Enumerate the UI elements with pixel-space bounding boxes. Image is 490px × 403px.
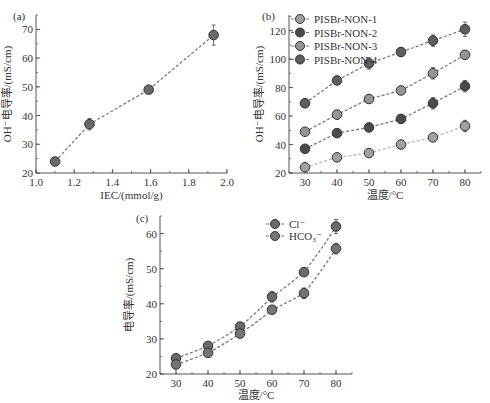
data-point-marker [300, 127, 310, 137]
y-tick-label: 40 [22, 110, 34, 122]
legend-label: HCO₃⁻ [289, 230, 322, 242]
series-line [305, 86, 465, 149]
data-point-marker [203, 348, 213, 358]
data-point-marker [396, 47, 406, 57]
data-point-marker [331, 222, 341, 232]
legend-marker [296, 15, 305, 24]
x-tick-label: 50 [235, 377, 247, 389]
x-tick-label: 1.2 [67, 176, 81, 188]
data-point-marker [299, 288, 309, 298]
x-tick-label: 40 [332, 176, 344, 188]
data-point-marker [300, 163, 310, 173]
x-tick-label: 40 [203, 377, 215, 389]
legend-item: PISBr-NON-2 [291, 27, 377, 39]
x-tick-label: 70 [299, 377, 311, 389]
y-tick-label: 60 [146, 228, 158, 240]
x-axis-title: 温度/°C [238, 388, 275, 401]
data-point-marker [396, 114, 406, 124]
y-tick-label: 70 [22, 23, 34, 35]
series-line [176, 249, 336, 365]
y-tick-label: 80 [275, 82, 287, 94]
data-point-marker [396, 86, 406, 96]
legend-marker [271, 232, 280, 241]
y-axis-title: OH⁻电导率/(mS/cm) [0, 46, 14, 143]
data-point-marker [85, 119, 95, 129]
y-tick-label: 40 [275, 139, 287, 151]
y-tick-label: 120 [270, 25, 287, 37]
legend-marker [296, 28, 305, 37]
x-tick-label: 60 [396, 176, 408, 188]
legend-item: PISBr-NON-1 [291, 13, 377, 25]
legend-item: Cl⁻ [266, 218, 305, 230]
legend-marker [296, 42, 305, 51]
x-tick-label: 30 [171, 377, 183, 389]
y-tick-label: 60 [275, 110, 287, 122]
y-tick-label: 30 [146, 333, 158, 345]
y-tick-label: 50 [22, 81, 34, 93]
x-tick-label: 80 [331, 377, 343, 389]
data-point-marker [267, 305, 277, 315]
legend-item: PISBr-NON-4 [291, 54, 378, 66]
panel-label: (c) [136, 212, 149, 225]
series-line [176, 227, 336, 359]
chart-panel-a: 1.01.21.41.61.82.0203040506070(a)IEC/(mm… [0, 10, 234, 202]
data-point-marker [171, 360, 181, 370]
legend-marker [296, 55, 305, 64]
y-axis-title: OH⁻电导率/(mS/cm) [252, 46, 266, 143]
x-axis-title: 温度/°C [367, 188, 404, 201]
legend-item: HCO₃⁻ [266, 230, 322, 242]
chart-panel-c: 3040506070802030405060(c)温度/°C电导率/(mS/cm… [122, 212, 352, 401]
y-tick-label: 40 [146, 298, 158, 310]
panel-label: (a) [13, 10, 26, 23]
y-tick-label: 30 [22, 138, 34, 150]
data-point-marker [460, 121, 470, 131]
data-point-marker [235, 329, 245, 339]
x-tick-label: 60 [267, 377, 279, 389]
data-point-marker [300, 98, 310, 108]
x-tick-label: 50 [364, 176, 376, 188]
data-point-marker [299, 267, 309, 277]
data-point-marker [428, 98, 438, 108]
x-tick-label: 1.6 [144, 176, 158, 188]
data-point-marker [267, 292, 277, 302]
data-point-marker [144, 85, 154, 95]
y-tick-label: 20 [22, 167, 34, 179]
series-line [305, 126, 465, 167]
y-axis-title: 电导率/(mS/cm) [122, 257, 136, 332]
data-point-marker [428, 133, 438, 143]
y-tick-label: 20 [146, 368, 158, 380]
data-point-marker [364, 123, 374, 133]
y-tick-label: 100 [270, 53, 287, 65]
figure: 1.01.21.41.61.82.0203040506070(a)IEC/(mm… [0, 0, 490, 403]
y-tick-label: 50 [146, 263, 158, 275]
data-point-marker [428, 69, 438, 79]
data-point-marker [332, 153, 342, 163]
data-point-marker [331, 244, 341, 254]
data-point-marker [364, 148, 374, 158]
data-point-marker [332, 76, 342, 86]
legend-label: PISBr-NON-4 [314, 54, 378, 66]
x-tick-label: 1.8 [182, 176, 196, 188]
legend-item: PISBr-NON-3 [291, 40, 378, 52]
series-line [305, 55, 465, 132]
data-point-marker [332, 128, 342, 138]
legend-label: PISBr-NON-2 [314, 27, 377, 39]
data-point-marker [300, 144, 310, 154]
y-tick-label: 20 [275, 167, 287, 179]
x-tick-label: 70 [428, 176, 440, 188]
data-point-marker [209, 30, 219, 40]
chart-panel-b: 30405060708020406080100120(b)温度/°COH⁻电导率… [252, 10, 481, 201]
legend-label: PISBr-NON-3 [314, 40, 378, 52]
panel-label: (b) [262, 10, 275, 23]
data-point-marker [332, 110, 342, 120]
x-tick-label: 1.4 [106, 176, 120, 188]
legend-label: PISBr-NON-1 [314, 13, 377, 25]
data-point-marker [428, 36, 438, 46]
x-tick-label: 2.0 [220, 176, 234, 188]
data-point-marker [460, 81, 470, 91]
y-tick-label: 60 [22, 52, 34, 64]
legend-label: Cl⁻ [289, 218, 305, 230]
series-line [55, 35, 214, 161]
data-point-marker [364, 94, 374, 104]
legend-marker [271, 220, 280, 229]
